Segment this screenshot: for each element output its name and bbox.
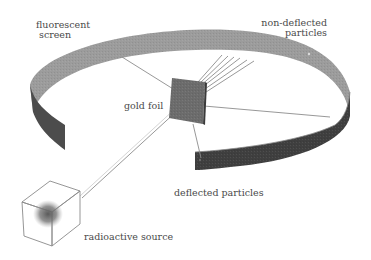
label-gold-foil: gold foil bbox=[124, 101, 163, 111]
label-fluorescent-screen-line2: screen bbox=[36, 30, 90, 40]
particle-paths bbox=[80, 55, 330, 198]
label-fluorescent-screen: fluorescent screen bbox=[36, 20, 90, 40]
deflected-path-right bbox=[204, 106, 330, 117]
scintillation-flash bbox=[199, 159, 201, 161]
non-deflected-path bbox=[199, 56, 228, 84]
radioactive-glow bbox=[33, 200, 63, 228]
label-non-deflected-particles: non-deflected particles bbox=[258, 18, 327, 38]
label-deflected-particles: deflected particles bbox=[174, 188, 264, 198]
deflected-path-back bbox=[122, 57, 178, 92]
label-radioactive-source: radioactive source bbox=[84, 232, 173, 242]
gold-foil bbox=[169, 78, 207, 125]
scintillation-flash bbox=[308, 53, 310, 55]
incident-beam bbox=[82, 110, 178, 198]
non-deflected-path bbox=[200, 57, 234, 86]
label-non-deflected-line2: particles bbox=[258, 28, 327, 38]
radioactive-source bbox=[22, 181, 80, 246]
